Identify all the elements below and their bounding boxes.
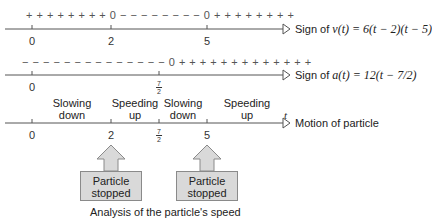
- tick-label: 0: [29, 129, 35, 141]
- arrowhead-icon: [283, 70, 290, 80]
- tick-label-fraction: 7 2: [156, 80, 162, 95]
- tick-label: 5: [204, 35, 210, 47]
- tick-label: 0: [29, 81, 35, 93]
- axis-variable: t: [284, 109, 287, 121]
- tick-label: 2: [108, 35, 114, 47]
- particle-stopped-box: Particle stopped: [80, 171, 142, 201]
- acceleration-sign-label: Sign of a(t) = 12(t − 7/2): [295, 69, 417, 81]
- acceleration-signs: − − − − − − − − − − − − − − 0 + + + + + …: [22, 56, 312, 68]
- figure-caption: Analysis of the particle's speed: [90, 206, 241, 218]
- acceleration-formula: a(t) = 12(t − 7/2): [332, 68, 416, 82]
- arrowhead-icon: [283, 24, 290, 34]
- motion-label: Motion of particle: [295, 117, 379, 129]
- phase-label: Slowing down: [53, 97, 92, 121]
- velocity-sign-label: Sign of v(t) = 6(t − 2)(t − 5): [295, 23, 432, 35]
- tick-label: 5: [204, 129, 210, 141]
- tick-label: 0: [29, 35, 35, 47]
- phase-label: Speeding up: [224, 97, 271, 121]
- acceleration-axis: [5, 70, 290, 80]
- phase-label: Speeding up: [112, 97, 159, 121]
- velocity-formula: v(t) = 6(t − 2)(t − 5): [332, 22, 432, 36]
- velocity-signs: + + + + + + + + 0 − − − − − − − − 0 + + …: [26, 9, 294, 21]
- callout-arrow-2: [193, 145, 221, 171]
- tick-label: 2: [108, 129, 114, 141]
- velocity-axis: [5, 24, 290, 34]
- tick-label-fraction: 7 2: [156, 128, 162, 143]
- callout-arrow-1: [97, 145, 125, 171]
- particle-stopped-box: Particle stopped: [176, 171, 238, 201]
- phase-label: Slowing down: [164, 97, 203, 121]
